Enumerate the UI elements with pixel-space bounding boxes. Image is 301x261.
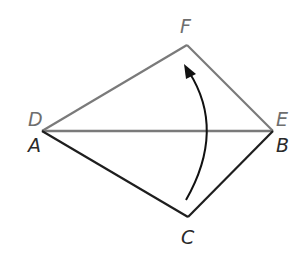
label-c: C [181,226,195,248]
segment-fe [187,45,273,131]
label-d: D [28,108,43,130]
triangle-abc [42,131,273,217]
arrow-arc [186,72,207,200]
triangle-def [42,45,273,131]
label-e: E [276,108,288,130]
arrowhead-icon [184,64,196,79]
label-a: A [26,134,41,156]
reflection-diagram: F D E A B C [0,0,301,261]
segment-ac [42,131,188,217]
label-b: B [276,134,289,156]
segment-cb [188,131,273,217]
segment-df [42,45,187,131]
label-f: F [180,15,192,37]
